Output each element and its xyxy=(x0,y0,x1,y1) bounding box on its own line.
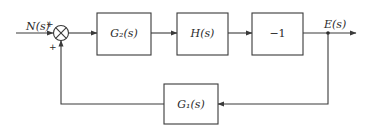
block-neg1: −1 xyxy=(252,13,303,55)
block-g2: G₂(s) xyxy=(97,13,151,55)
block-g2-label: G₂(s) xyxy=(110,27,137,40)
block-diagram: N(s) + + G₂(s) H(s) −1 E(s) G₁(s) xyxy=(0,0,367,134)
summing-junction-icon xyxy=(54,26,69,41)
block-neg1-label: −1 xyxy=(269,27,285,40)
block-h: H(s) xyxy=(177,13,228,55)
output-label: E(s) xyxy=(323,18,346,31)
sign-top-label: + xyxy=(46,19,54,29)
block-h-label: H(s) xyxy=(190,27,215,40)
sign-bottom-label: + xyxy=(49,42,57,52)
block-g1: G₁(s) xyxy=(164,84,218,124)
block-g1-label: G₁(s) xyxy=(177,98,204,111)
